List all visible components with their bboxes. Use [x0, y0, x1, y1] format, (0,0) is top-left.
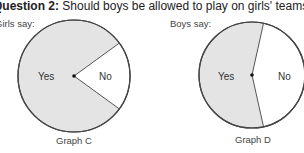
pie-chart-c: Yes No — [18, 20, 130, 132]
graph-d-no-label: No — [278, 71, 291, 82]
graph-c-no-label: No — [99, 71, 112, 82]
graph-c-center-dot — [72, 74, 76, 78]
pie-charts: Yes No Yes No — [0, 0, 304, 153]
graph-d-label: Graph D — [235, 134, 271, 145]
graph-c-yes-label: Yes — [38, 71, 54, 82]
graph-d-yes-label: Yes — [218, 71, 234, 82]
pie-chart-d: Yes No — [199, 22, 304, 128]
graph-d-center-dot — [250, 73, 254, 77]
graph-c-label: Graph C — [56, 135, 92, 146]
